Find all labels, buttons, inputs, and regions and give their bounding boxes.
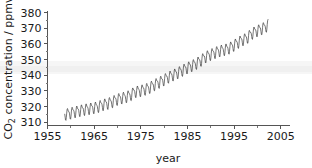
chart-canvas: 310320330340350360370380 195519651975198…: [0, 0, 312, 168]
y-tick-label-330: 330: [21, 85, 42, 98]
y-axis-title: CO2 concentration / ppmv: [2, 0, 17, 140]
x-tick-label-2005: 2005: [267, 130, 295, 143]
x-tick-label-1975: 1975: [127, 130, 155, 143]
x-tick-label-1955: 1955: [34, 130, 62, 143]
background-haze-band-core: [0, 66, 312, 72]
x-tick-label-1985: 1985: [173, 130, 201, 143]
x-tick-label-1965: 1965: [80, 130, 108, 143]
co2-chart-figure: 310320330340350360370380 195519651975198…: [0, 0, 312, 168]
y-tick-label-360: 360: [21, 38, 42, 51]
x-tick-label-1995: 1995: [220, 130, 248, 143]
y-tick-label-370: 370: [21, 22, 42, 35]
y-tick-label-340: 340: [21, 69, 42, 82]
y-tick-label-310: 310: [21, 116, 42, 129]
y-tick-label-380: 380: [21, 7, 42, 20]
x-axis-title: year: [156, 152, 181, 165]
figure-background: [0, 0, 312, 168]
y-tick-label-350: 350: [21, 54, 42, 67]
y-tick-label-320: 320: [21, 101, 42, 114]
